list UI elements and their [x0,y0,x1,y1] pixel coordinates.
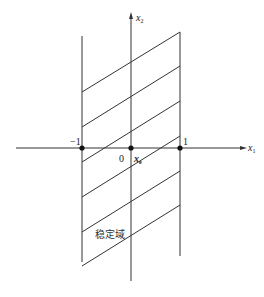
label-neg1: −1 [70,136,81,147]
y-axis-label: x2 [135,12,143,24]
point-origin [128,145,133,150]
label-zero: 0 [119,153,124,164]
label-xe: xe [133,153,142,165]
x-axis-arrow-icon [240,146,247,150]
stability-diagram: −1 0 1 xe x1 x2 稳定域 [0,0,264,297]
label-pos1: 1 [183,136,188,147]
y-axis-arrow-icon [129,12,133,19]
point-pos1 [177,145,182,150]
x-axis-label: x1 [247,142,255,154]
region-label: 稳定域 [95,228,125,240]
